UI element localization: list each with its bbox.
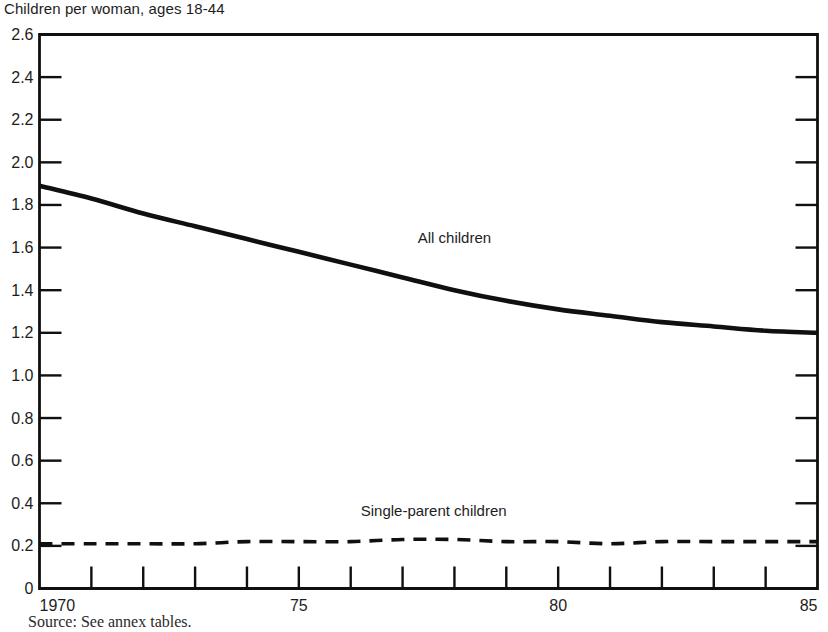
y-tick-label: 2.2 [11, 111, 33, 128]
y-tick-label: 0.4 [11, 495, 33, 512]
chart-figure: Children per woman, ages 18-44 00.20.40.… [0, 0, 828, 632]
x-tick-label: 80 [549, 597, 567, 614]
series-label-all-children: All children [418, 229, 491, 246]
y-tick-label: 1.0 [11, 367, 33, 384]
series-line-all-children [40, 186, 818, 333]
x-axis-tick-labels: 1970758085 [40, 597, 818, 614]
series-line-single-parent-children [40, 539, 818, 544]
y-tick-label: 0.2 [11, 537, 33, 554]
source-note: Source: See annex tables. [28, 613, 192, 631]
y-tick-label: 2.6 [11, 26, 33, 43]
y-tick-label: 2.4 [11, 69, 33, 86]
chart-plot-svg: 00.20.40.60.81.01.21.41.61.82.02.22.42.6… [0, 0, 828, 632]
y-tick-label: 1.2 [11, 324, 33, 341]
y-axis-tick-labels: 00.20.40.60.81.01.21.41.61.82.02.22.42.6 [11, 26, 33, 597]
y-tick-label: 0.8 [11, 410, 33, 427]
y-axis-ticks [40, 77, 818, 546]
series-label-single-parent-children: Single-parent children [361, 502, 507, 519]
y-tick-label: 0.6 [11, 452, 33, 469]
y-tick-label: 1.8 [11, 196, 33, 213]
x-tick-label: 1970 [40, 597, 76, 614]
y-tick-label: 0 [25, 580, 34, 597]
x-axis-ticks [91, 567, 765, 589]
chart-title: Children per woman, ages 18-44 [4, 0, 225, 17]
x-tick-label: 85 [800, 597, 818, 614]
x-tick-label: 75 [290, 597, 308, 614]
y-tick-label: 2.0 [11, 154, 33, 171]
y-tick-label: 1.4 [11, 282, 33, 299]
y-tick-label: 1.6 [11, 239, 33, 256]
